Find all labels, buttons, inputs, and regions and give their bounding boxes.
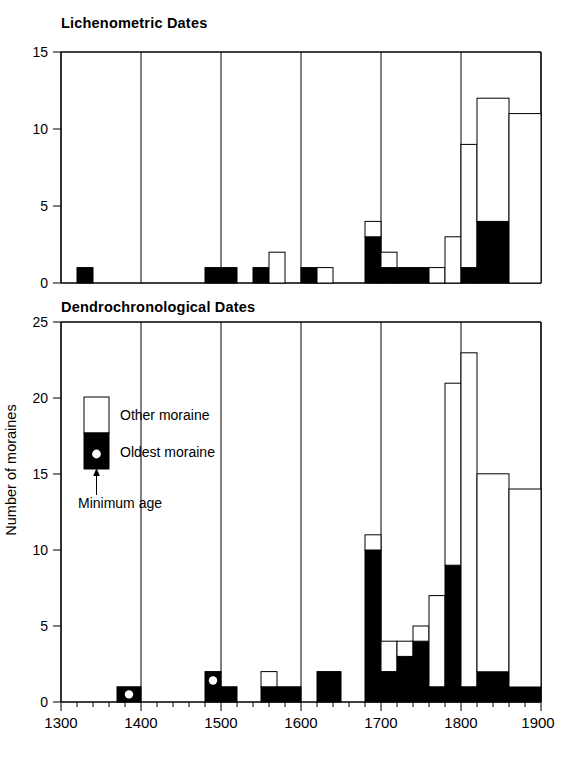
bar-segment-other bbox=[261, 672, 277, 687]
bar-segment-other bbox=[445, 383, 461, 565]
bar-segment-oldest bbox=[445, 565, 461, 702]
y-axis-top: 15 10 5 0 bbox=[32, 44, 61, 291]
ytick-bottom-15: 15 bbox=[32, 466, 48, 482]
figure-container: Lichenometric Dates bbox=[0, 0, 575, 761]
legend-minimum-age-dot bbox=[92, 450, 101, 459]
bar-segment-other bbox=[445, 237, 461, 283]
ytick-top-0: 0 bbox=[40, 275, 48, 291]
y-axis-title: Number of moraines bbox=[3, 404, 19, 535]
bar-segment-oldest bbox=[221, 687, 237, 702]
bars-lichenometric bbox=[77, 98, 541, 283]
xtick-1600: 1600 bbox=[284, 714, 317, 731]
bars-dendrochronological bbox=[117, 353, 541, 702]
bar-segment-other bbox=[429, 596, 445, 687]
ytick-bottom-10: 10 bbox=[32, 542, 48, 558]
xtick-1300: 1300 bbox=[44, 714, 77, 731]
bar-segment-other bbox=[269, 252, 285, 283]
bar-segment-other bbox=[381, 641, 397, 671]
xtick-1900: 1900 bbox=[521, 714, 554, 731]
bar-segment-other bbox=[509, 489, 541, 687]
bar-segment-oldest bbox=[317, 672, 341, 702]
moraine-age-histograms: Lichenometric Dates bbox=[0, 0, 575, 761]
bar-segment-other bbox=[317, 268, 333, 283]
legend-label-oldest: Oldest moraine bbox=[120, 444, 215, 460]
bar-segment-other bbox=[509, 114, 541, 283]
bar-segment-oldest bbox=[477, 221, 509, 283]
legend: Other moraine Oldest moraine Minimum age bbox=[78, 397, 215, 511]
bar-segment-other bbox=[477, 98, 509, 221]
legend-swatch-other bbox=[84, 397, 109, 433]
bar-segment-other bbox=[365, 221, 381, 236]
bar-segment-other bbox=[365, 535, 381, 550]
panel-dendrochronological: Dendrochronological Dates bbox=[32, 299, 554, 731]
bar-segment-oldest bbox=[397, 656, 413, 702]
ytick-bottom-5: 5 bbox=[40, 618, 48, 634]
ytick-bottom-0: 0 bbox=[40, 694, 48, 710]
bar-segment-oldest bbox=[301, 268, 317, 283]
bar-segment-other bbox=[429, 268, 445, 283]
bar-segment-oldest bbox=[429, 687, 445, 702]
bar-segment-oldest bbox=[277, 687, 301, 702]
minimum-age-dot bbox=[209, 676, 217, 684]
panel-title-dendrochronological: Dendrochronological Dates bbox=[61, 299, 255, 315]
bar-segment-oldest bbox=[381, 268, 397, 283]
minimum-age-dot bbox=[125, 690, 133, 698]
bar-segment-other bbox=[413, 626, 429, 641]
gridlines-top bbox=[141, 52, 461, 283]
ytick-top-10: 10 bbox=[32, 121, 48, 137]
ytick-top-5: 5 bbox=[40, 198, 48, 214]
ytick-bottom-25: 25 bbox=[32, 314, 48, 330]
panel-title-lichenometric: Lichenometric Dates bbox=[61, 15, 207, 31]
xtick-1800: 1800 bbox=[444, 714, 477, 731]
bar-segment-oldest bbox=[397, 268, 429, 283]
xtick-1400: 1400 bbox=[124, 714, 157, 731]
bar-segment-other bbox=[381, 252, 397, 267]
bar-segment-other bbox=[461, 353, 477, 687]
bar-segment-oldest bbox=[413, 641, 429, 702]
y-axis-bottom: 25 20 15 10 5 0 bbox=[32, 314, 61, 710]
bar-segment-oldest bbox=[205, 672, 221, 702]
bar-segment-oldest bbox=[477, 672, 509, 702]
legend-label-other: Other moraine bbox=[120, 407, 210, 423]
bar-segment-oldest bbox=[253, 268, 269, 283]
bar-segment-oldest bbox=[77, 268, 93, 283]
bar-segment-oldest bbox=[509, 687, 541, 702]
bar-segment-other bbox=[397, 641, 413, 656]
panel-lichenometric: Lichenometric Dates bbox=[32, 15, 541, 291]
bar-segment-oldest bbox=[205, 268, 237, 283]
bar-segment-oldest bbox=[261, 687, 277, 702]
bar-segment-other bbox=[477, 474, 509, 672]
xtick-1500: 1500 bbox=[204, 714, 237, 731]
legend-label-minimum-age: Minimum age bbox=[78, 495, 162, 511]
xtick-1700: 1700 bbox=[364, 714, 397, 731]
bar-segment-oldest bbox=[461, 687, 477, 702]
bar-segment-oldest bbox=[461, 268, 477, 283]
ytick-top-15: 15 bbox=[32, 44, 48, 60]
x-axis: 1300 1400 1500 1600 1700 1800 1900 bbox=[44, 702, 554, 731]
bar-segment-other bbox=[461, 144, 477, 267]
bar-segment-oldest bbox=[365, 550, 381, 702]
ytick-bottom-20: 20 bbox=[32, 390, 48, 406]
bar-segment-oldest bbox=[381, 672, 397, 702]
bar-segment-oldest bbox=[365, 237, 381, 283]
